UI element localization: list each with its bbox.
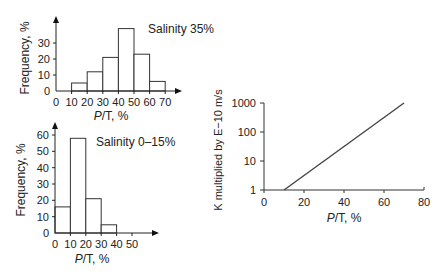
x-tick-label: 40 bbox=[338, 196, 350, 208]
bar-30-40 bbox=[103, 57, 119, 91]
y-axis-label: Frequency, % bbox=[18, 21, 32, 94]
chart-title: Salinity 35% bbox=[148, 22, 214, 36]
x-tick-label: 20 bbox=[80, 238, 92, 250]
y-tick-label: 30 bbox=[37, 178, 49, 190]
x-tick-label: 20 bbox=[81, 96, 93, 108]
bar-40-50 bbox=[118, 29, 134, 91]
x-axis-label: P/T, % bbox=[75, 252, 110, 266]
y-tick-label: 50 bbox=[37, 145, 49, 157]
bar-0-10 bbox=[55, 207, 70, 233]
x-tick-label: 30 bbox=[95, 238, 107, 250]
y-tick-label: 0 bbox=[43, 227, 49, 239]
y-tick-label: 20 bbox=[38, 53, 50, 65]
y-axis-label: Frequency, % bbox=[14, 143, 28, 216]
y-tick-label: 10 bbox=[244, 155, 256, 167]
x-tick-label: 70 bbox=[159, 96, 171, 108]
x-tick-label: 60 bbox=[143, 96, 155, 108]
bar-10-20 bbox=[70, 138, 85, 233]
y-tick-label: 100 bbox=[238, 126, 256, 138]
x-tick-label: 80 bbox=[418, 196, 430, 208]
bars bbox=[55, 138, 117, 233]
x-tick-label: 50 bbox=[126, 238, 138, 250]
y-axis-label: K multiplied by E−10 m/s bbox=[212, 89, 224, 211]
chart-title: Salinity 0–15% bbox=[96, 135, 176, 149]
y-tick-label: 1 bbox=[250, 184, 256, 196]
bar-10-20 bbox=[72, 83, 88, 91]
y-tick-label: 60 bbox=[37, 129, 49, 141]
x-axis-arrow-icon bbox=[175, 88, 182, 94]
x-axis-label: P/T, % bbox=[94, 109, 129, 123]
histogram-salinity-35: 0 10 20 30 0 10 20 30 40 50 60 70 P/T, %… bbox=[18, 16, 214, 123]
x-tick-label: 10 bbox=[64, 238, 76, 250]
x-tick-label: 40 bbox=[112, 96, 124, 108]
bar-60-70 bbox=[150, 81, 166, 91]
bar-30-40 bbox=[101, 225, 116, 233]
y-axis-arrow-icon bbox=[53, 16, 59, 23]
histogram-salinity-0-15: 0 10 20 30 40 50 60 0 10 20 30 40 50 P/T… bbox=[14, 122, 176, 266]
x-tick-label: 40 bbox=[110, 238, 122, 250]
bars bbox=[72, 29, 166, 91]
bar-20-30 bbox=[87, 72, 103, 91]
x-tick-label: 50 bbox=[128, 96, 140, 108]
y-tick-label: 10 bbox=[38, 69, 50, 81]
x-tick-label: 20 bbox=[298, 196, 310, 208]
y-tick-label: 30 bbox=[38, 37, 50, 49]
x-tick-label: 30 bbox=[97, 96, 109, 108]
series-line bbox=[284, 103, 404, 190]
x-tick-label: 0 bbox=[261, 196, 267, 208]
figure: 0 10 20 30 0 10 20 30 40 50 60 70 P/T, %… bbox=[0, 0, 443, 279]
x-tick-label: 10 bbox=[65, 96, 77, 108]
x-tick-label: 0 bbox=[53, 96, 59, 108]
y-tick-label: 10 bbox=[37, 211, 49, 223]
y-tick-label: 1000 bbox=[232, 97, 256, 109]
y-tick-label: 40 bbox=[37, 162, 49, 174]
x-tick-label: 0 bbox=[52, 238, 58, 250]
x-tick-label: 60 bbox=[378, 196, 390, 208]
line-chart-permeability: 1 10 100 1000 0 20 40 60 80 P/T, % K mul… bbox=[212, 89, 430, 225]
bar-50-60 bbox=[134, 54, 150, 91]
x-axis-arrow-icon bbox=[152, 230, 159, 236]
y-axis-arrow-icon bbox=[52, 122, 58, 129]
y-tick-label: 20 bbox=[37, 194, 49, 206]
x-axis-label: P/T, % bbox=[327, 211, 362, 225]
bar-20-30 bbox=[86, 199, 101, 233]
y-tick-label: 0 bbox=[44, 85, 50, 97]
